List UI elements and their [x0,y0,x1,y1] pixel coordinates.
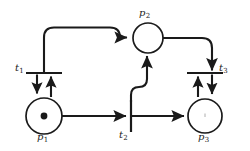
label-p1-subscript: 1 [43,136,48,144]
label-t3: t3 [219,63,228,75]
label-t3-subscript: 3 [223,67,228,75]
arc-t2-to-p2 [131,56,147,102]
petri-net-canvas [0,0,250,151]
place-p2 [133,23,163,53]
label-t1: t1 [15,63,24,75]
label-p3: p3 [198,132,209,144]
label-p2-subscript: 2 [145,12,150,20]
label-p1: p1 [37,132,48,144]
arc-t1-to-p2 [44,28,127,73]
token-p1 [41,113,48,120]
label-t1-subscript: 1 [19,67,24,75]
label-p2: p2 [139,8,150,20]
label-t2: t2 [119,130,128,142]
label-t2-subscript: 2 [123,134,128,142]
petri-net-figure: t1 t3 t2 p1 p2 p3 [0,0,250,151]
label-p3-subscript: 3 [204,136,209,144]
arc-p2-to-t3 [163,38,212,71]
